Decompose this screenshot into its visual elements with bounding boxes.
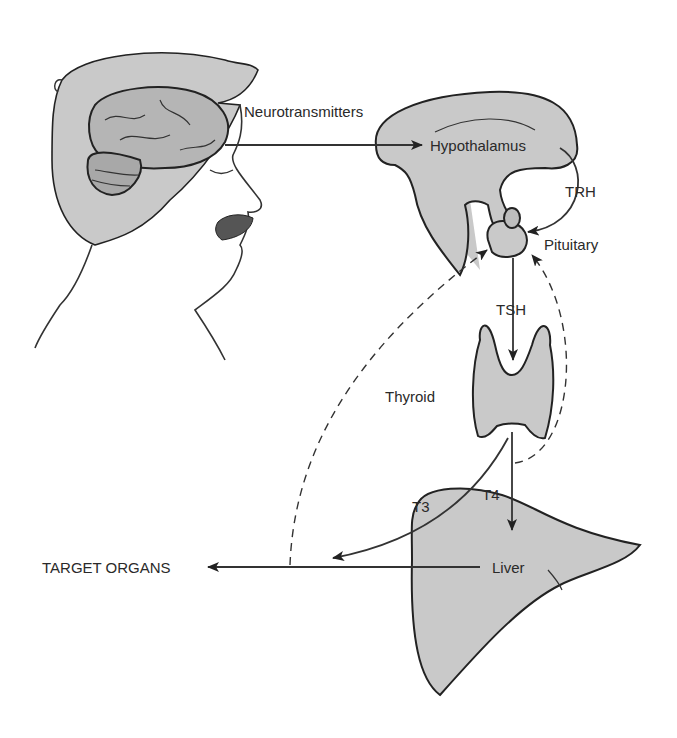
pituitary-posterior: [504, 208, 520, 228]
head-illustration: [35, 53, 261, 360]
label-thyroid: Thyroid: [385, 389, 435, 404]
liver-shape: [412, 488, 640, 695]
neck-back: [35, 245, 92, 348]
label-hypothalamus: Hypothalamus: [430, 138, 526, 153]
label-neurotransmitters: Neurotransmitters: [244, 104, 363, 119]
label-t3: T3: [412, 499, 430, 514]
label-liver: Liver: [492, 560, 525, 575]
label-pituitary: Pituitary: [544, 237, 598, 252]
mustache: [216, 215, 253, 240]
label-tsh: TSH: [496, 302, 526, 317]
label-t4: T4: [482, 487, 500, 502]
label-target-organs: TARGET ORGANS: [42, 560, 171, 575]
label-trh: TRH: [565, 184, 596, 199]
eye: [210, 170, 233, 173]
